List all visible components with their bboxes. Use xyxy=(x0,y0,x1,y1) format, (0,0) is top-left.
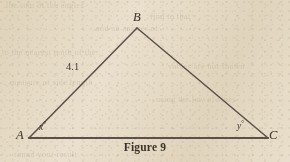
figure-caption: Figure 9 xyxy=(0,141,290,153)
degree-symbol: ° xyxy=(241,119,244,127)
side-BC xyxy=(137,28,268,138)
side-length-label-ab: 4.1 xyxy=(66,61,79,72)
triangle-diagram xyxy=(0,0,290,162)
triangle-sides xyxy=(29,28,268,138)
figure-page: the sum of the angles find to that and a… xyxy=(0,0,290,162)
degree-symbol: ° xyxy=(43,120,46,128)
angle-label-y: y° xyxy=(237,121,244,131)
vertex-label-b: B xyxy=(133,10,141,25)
angle-label-x: x° xyxy=(39,122,46,132)
